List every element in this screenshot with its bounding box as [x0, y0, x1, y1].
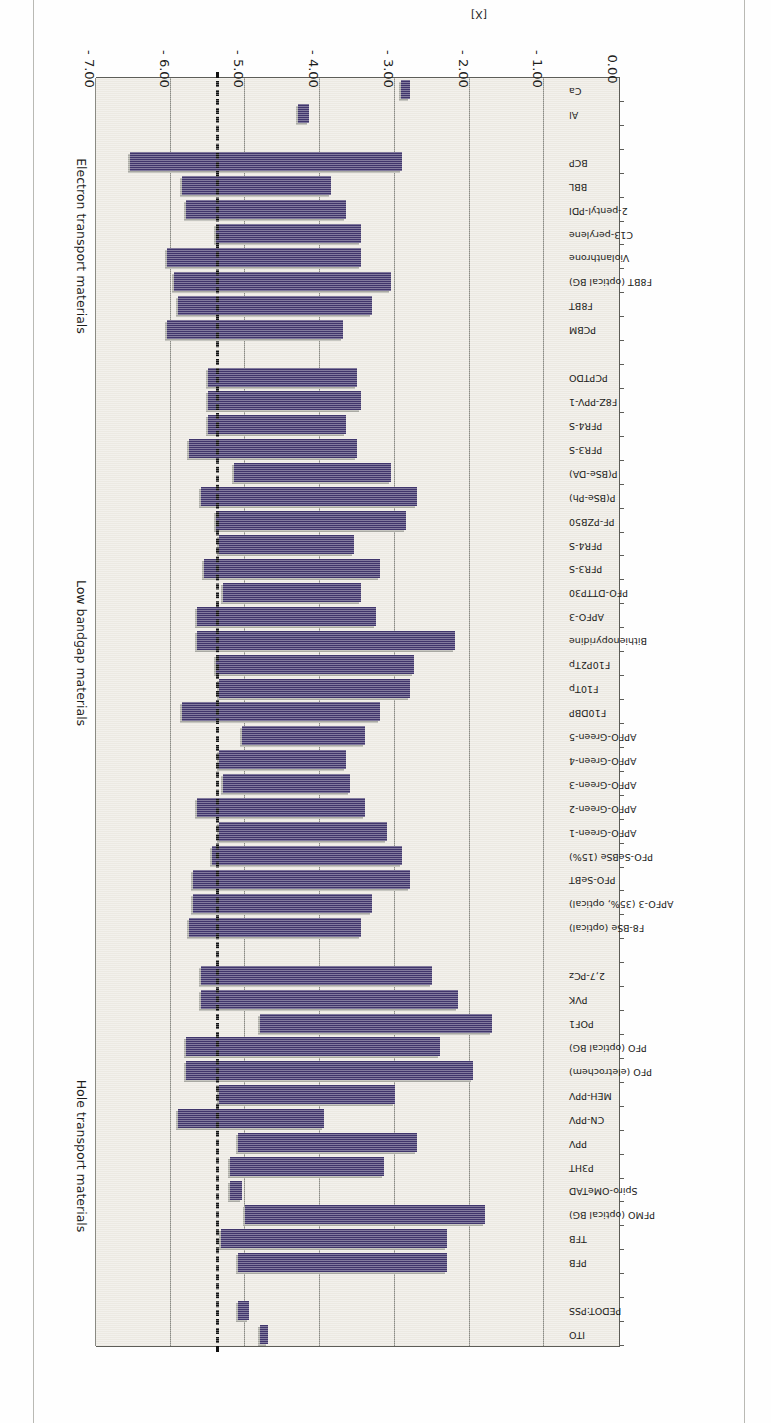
category-label: APFO-3: [569, 612, 729, 622]
category-tick: [619, 484, 624, 485]
bar: [193, 870, 410, 889]
category-tick: [619, 1345, 624, 1346]
category-label: P(BSe-Ph): [569, 493, 729, 503]
category-tick: [619, 1106, 624, 1107]
category-tick: [619, 723, 624, 724]
bar: [238, 1133, 417, 1152]
bar-body: [223, 774, 350, 793]
x-tick-label: - 7.00: [82, 50, 97, 88]
category-tick: [619, 962, 624, 963]
category-tick: [619, 1297, 624, 1298]
scan-edge-left: [33, 0, 34, 1423]
bar-body: [245, 1205, 484, 1224]
category-label: 2-pentyl-PDI: [569, 206, 729, 216]
bar: [238, 1301, 249, 1320]
bar: [219, 679, 410, 698]
bar: [197, 607, 376, 626]
category-tick: [619, 675, 624, 676]
bar: [221, 1229, 447, 1248]
category-label: F8Z-PPV-1: [569, 397, 729, 407]
category-tick: [619, 268, 624, 269]
bar-body: [208, 415, 346, 434]
bar-body: [260, 1325, 267, 1344]
bar: [219, 750, 346, 769]
bar: [223, 583, 361, 602]
energy-level-bar-chart: ITOPEDOT:PSSPFBTFBPFMO (optical BG)Spiro…: [40, 8, 740, 1413]
category-tick: [619, 125, 624, 126]
bar-body: [201, 990, 459, 1009]
bar-body: [186, 1037, 440, 1056]
bar: [186, 1061, 474, 1080]
bar: [208, 368, 357, 387]
bar-body: [193, 870, 410, 889]
x-tick-label: 0.00: [605, 55, 620, 84]
category-label: PEDOT:PSS: [569, 1306, 729, 1316]
bar-body: [186, 200, 347, 219]
bar-body: [167, 248, 361, 267]
bar: [197, 798, 365, 817]
bar: [234, 463, 391, 482]
category-label: BCP: [569, 158, 729, 168]
category-tick: [619, 436, 624, 437]
category-label: PFO-SeBT: [569, 875, 729, 885]
bar: [231, 1157, 384, 1176]
category-tick: [619, 627, 624, 628]
bar: [298, 104, 309, 123]
bar-body: [223, 583, 361, 602]
bar: [208, 391, 361, 410]
gridline: [394, 78, 395, 1346]
category-tick: [619, 412, 624, 413]
bar: [219, 1085, 395, 1104]
bar-body: [174, 272, 391, 291]
category-label: PFO (optical BG): [569, 1043, 729, 1053]
bar-body: [212, 846, 403, 865]
group-label: Hole transport materials: [74, 1079, 89, 1232]
bar-body: [216, 511, 407, 530]
bar-body: [216, 224, 362, 243]
bar: [245, 1205, 484, 1224]
category-tick: [619, 173, 624, 174]
category-tick: [619, 867, 624, 868]
category-tick: [619, 699, 624, 700]
bar: [193, 894, 372, 913]
plot-area: [96, 77, 620, 1347]
bar-body: [201, 487, 418, 506]
category-label: APFO-Green-5: [569, 732, 729, 742]
bar-body: [197, 631, 455, 650]
category-tick: [619, 364, 624, 365]
category-tick: [619, 197, 624, 198]
category-label: PFO (eletrochem): [569, 1067, 729, 1077]
category-tick: [619, 579, 624, 580]
category-label: APFO-Green-2: [569, 804, 729, 814]
bar-body: [231, 1181, 242, 1200]
category-tick: [619, 819, 624, 820]
category-tick: [619, 1249, 624, 1250]
bar: [231, 1181, 242, 1200]
bar-body: [260, 1014, 492, 1033]
bar-body: [208, 368, 357, 387]
category-label: ITO: [569, 1330, 729, 1340]
category-label: PFMO (optical BG): [569, 1210, 729, 1220]
category-label: 2,7-PCz: [569, 971, 729, 981]
category-tick: [619, 938, 624, 939]
bar-body: [221, 1229, 447, 1248]
bar-body: [298, 104, 309, 123]
bar: [242, 726, 365, 745]
category-tick: [619, 986, 624, 987]
category-label: F8-BSe (optical): [569, 923, 729, 933]
bar: [178, 1109, 324, 1128]
category-label: F8BT: [569, 301, 729, 311]
bar: [219, 535, 353, 554]
bar: [167, 320, 343, 339]
category-label: APFO-Green-1: [569, 828, 729, 838]
category-label: F10DBP: [569, 708, 729, 718]
bar: [174, 272, 391, 291]
bar: [223, 774, 350, 793]
category-tick: [619, 843, 624, 844]
category-tick: [619, 1225, 624, 1226]
category-tick: [619, 316, 624, 317]
category-label: PFB: [569, 1258, 729, 1268]
x-tick-label: - 5.00: [231, 50, 246, 88]
category-label: BBL: [569, 182, 729, 192]
category-tick: [619, 460, 624, 461]
